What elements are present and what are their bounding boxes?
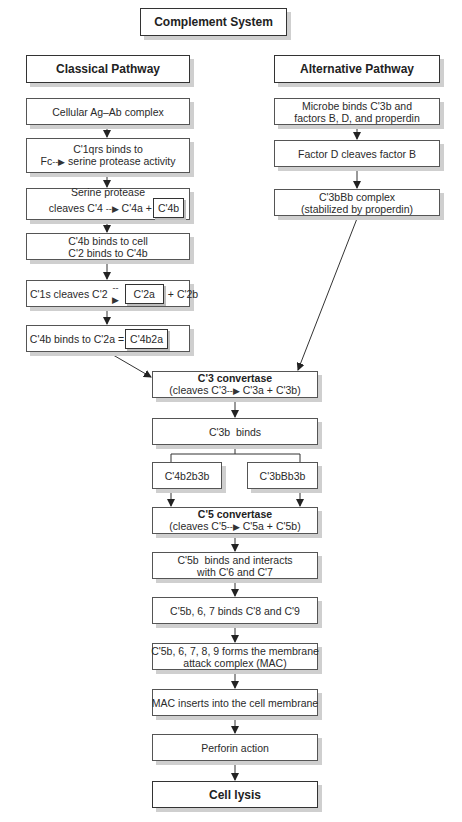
step-text-line1: C'5b binds and interacts — [177, 554, 292, 566]
alternative-heading-label: Alternative Pathway — [300, 63, 414, 75]
dashed-arrow-icon: --▶ — [106, 204, 119, 214]
alternative-step-2: Factor D cleaves factor B — [274, 140, 440, 167]
step-text-pre: cleaves C'4 — [49, 202, 103, 214]
step-text: Perforin action — [201, 742, 269, 754]
c3b-binds-box: C'3b binds — [152, 418, 318, 445]
step-text: Cellular Ag–Ab complex — [52, 106, 163, 118]
step-text-line2: attack complex (MAC) — [183, 657, 286, 669]
classical-heading-label: Classical Pathway — [56, 63, 160, 75]
step-text-post: serine protease activity — [68, 155, 175, 167]
step-text-pre: C'1s cleaves C'2 — [30, 288, 108, 300]
mac-inserts-box: MAC inserts into the cell membrane — [152, 689, 318, 716]
step-text-line1: Microbe binds C'3b and — [302, 100, 412, 112]
step-text-line2: factors B, D, and properdin — [294, 112, 419, 124]
step-text-pre: Fc — [41, 155, 53, 167]
step-text-mid: C'4a + — [122, 202, 152, 214]
c5-convertase-title: C'5 convertase — [198, 508, 272, 520]
classical-step-3: Serine protease cleaves C'4 --▶ C'4a +C'… — [26, 188, 190, 220]
step-text-line2: cleaves C'4 --▶ C'4a +C'4b — [49, 198, 185, 218]
cell-lysis-box: Cell lysis — [152, 781, 318, 808]
detail-pre: (cleaves C'3 — [169, 384, 226, 396]
step-text-pre: C'4b binds to C'2a = — [30, 333, 124, 345]
detail-post: C'3a + C'3b) — [243, 384, 301, 396]
step-text: C'5b, 6, 7 binds C'8 and C'9 — [170, 605, 300, 617]
alternative-step-1: Microbe binds C'3b and factors B, D, and… — [274, 98, 440, 125]
c5-convertase-box: C'5 convertase (cleaves C'5--▶ C'5a + C'… — [152, 507, 318, 534]
step-text: C'3bBb3b — [260, 470, 306, 482]
dashed-arrow-icon: --▶ — [227, 522, 240, 532]
step-text-post: + C'2b — [168, 288, 198, 300]
highlight-box-c2a: C'2a — [125, 284, 164, 304]
step-text-line2: with C'6 and C'7 — [197, 566, 273, 578]
step-text-line1: C'1qrs binds to — [73, 143, 143, 155]
c5-convertase-detail: (cleaves C'5--▶ C'5a + C'5b) — [169, 520, 300, 533]
highlight-box-c4b: C'4b — [153, 198, 184, 218]
classical-step-4: C'4b binds to cell C'2 binds to C'4b — [26, 233, 190, 260]
c3-convertase-title: C'3 convertase — [198, 372, 272, 384]
alternative-pathway-heading: Alternative Pathway — [274, 55, 440, 83]
mac-forms-box: C'5b, 6, 7, 8, 9 forms the membrane atta… — [152, 643, 318, 670]
step-text-line2: Fc--▶ serine protease activity — [41, 155, 176, 168]
dashed-arrow-icon: --▶ — [227, 386, 240, 396]
step-text: C'3b binds — [209, 426, 261, 438]
step-text-line1: Factor D cleaves factor B — [298, 148, 416, 160]
arrow-classical-to-c3 — [108, 352, 151, 377]
highlight-box-c4b2a: C'4b2a — [125, 329, 168, 349]
classical-step-1: Cellular Ag–Ab complex — [26, 98, 190, 125]
cell-lysis-label: Cell lysis — [209, 789, 261, 801]
c5b67-box: C'5b, 6, 7 binds C'8 and C'9 — [152, 597, 318, 624]
c3-convertase-box: C'3 convertase (cleaves C'3--▶ C'3a + C'… — [152, 371, 318, 398]
dashed-arrow-icon: --▶ — [111, 282, 121, 306]
dashed-arrow-icon: --▶ — [52, 157, 65, 167]
detail-pre: (cleaves C'5 — [169, 520, 226, 532]
step-text-line2: C'2 binds to C'4b — [68, 247, 147, 259]
arrow-alt-to-c3 — [298, 216, 358, 370]
c3-convertase-detail: (cleaves C'3--▶ C'3a + C'3b) — [169, 384, 300, 397]
step-text: C'4b2b3b — [165, 470, 210, 482]
classical-step-5: C'1s cleaves C'2 --▶ C'2a + C'2b — [26, 280, 190, 307]
step-text-line1: Serine protease — [71, 186, 145, 198]
step-text-line1: C'3bBb complex — [319, 191, 395, 203]
classical-step-2: C'1qrs binds to Fc--▶ serine protease ac… — [26, 138, 190, 173]
title-box: Complement System — [140, 8, 287, 36]
step-text-line1: C'5b, 6, 7, 8, 9 forms the membrane — [151, 645, 319, 657]
step-text-line2: (stabilized by properdin) — [301, 203, 413, 215]
step-text: MAC inserts into the cell membrane — [152, 697, 318, 709]
step-text-line1: C'4b binds to cell — [68, 235, 148, 247]
classical-step-6: C'4b binds to C'2a = C'4b2a — [26, 325, 190, 352]
classical-pathway-heading: Classical Pathway — [26, 55, 190, 83]
diagram-title: Complement System — [154, 16, 273, 28]
perforin-box: Perforin action — [152, 734, 318, 761]
detail-post: C'5a + C'5b) — [243, 520, 301, 532]
alternative-step-3: C'3bBb complex (stabilized by properdin) — [274, 189, 440, 216]
branch-left-box: C'4b2b3b — [152, 462, 222, 489]
c5b-binds-box: C'5b binds and interacts with C'6 and C'… — [152, 552, 318, 579]
branch-right-box: C'3bBb3b — [247, 462, 318, 489]
